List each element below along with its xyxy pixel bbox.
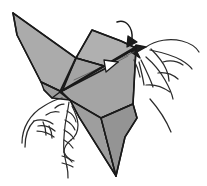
origami-diagram-canvas (0, 0, 207, 186)
origami-diagram (0, 0, 207, 186)
